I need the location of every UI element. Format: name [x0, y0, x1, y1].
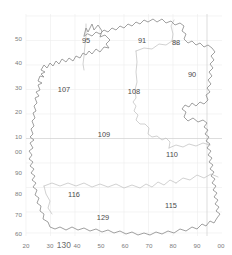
- region-label-110: 110: [166, 151, 178, 158]
- x-tick-80: 80: [169, 243, 176, 249]
- y-tick-80: 80: [8, 191, 22, 197]
- y-tick-90: 90: [8, 170, 22, 176]
- x-tick-130: 130: [57, 241, 71, 249]
- region-label-88: 88: [172, 39, 180, 46]
- region-label-129: 129: [97, 214, 109, 221]
- region-label-90: 90: [188, 71, 196, 78]
- y-tick-10: 10: [8, 134, 22, 140]
- y-tick-20: 20: [8, 109, 22, 115]
- y-tick-60: 60: [8, 231, 22, 237]
- x-tick-40: 40: [73, 243, 80, 249]
- map-figure: 95 91 88 90 107 108 109 110 116 115 129 …: [0, 0, 232, 255]
- region-label-107: 107: [58, 86, 70, 93]
- map-plot-area: 95 91 88 90 107 108 109 110 116 115 129: [26, 14, 222, 236]
- x-tick-70: 70: [145, 243, 152, 249]
- region-label-95: 95: [82, 37, 90, 44]
- y-tick-50: 50: [8, 36, 22, 42]
- y-tick-40: 40: [8, 60, 22, 66]
- x-tick-90: 90: [193, 243, 200, 249]
- y-tick-30: 30: [8, 85, 22, 91]
- x-tick-30: 30: [46, 243, 53, 249]
- region-label-91: 91: [138, 37, 146, 44]
- x-tick-50: 50: [97, 243, 104, 249]
- region-label-109: 109: [98, 131, 110, 138]
- region-label-layer: 95 91 88 90 107 108 109 110 116 115 129: [26, 14, 222, 236]
- region-label-115: 115: [165, 202, 177, 209]
- y-tick-00: 00: [8, 149, 22, 155]
- region-label-116: 116: [68, 191, 80, 198]
- x-tick-20: 20: [22, 243, 29, 249]
- region-label-108: 108: [128, 88, 140, 95]
- y-tick-70: 70: [8, 212, 22, 218]
- x-tick-00: 00: [217, 243, 224, 249]
- x-tick-60: 60: [121, 243, 128, 249]
